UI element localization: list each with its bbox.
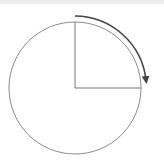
quarter-turn-diagram [0,0,164,164]
clockwise-arrow-icon [75,16,146,80]
